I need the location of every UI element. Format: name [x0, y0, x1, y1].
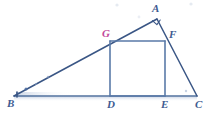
artifact-speckle [185, 90, 187, 92]
vertex-label-a: A [152, 3, 159, 14]
vertex-label-g: G [102, 28, 110, 39]
vertex-label-e: E [161, 99, 168, 110]
geometry-figure: A G F B D E C [0, 0, 209, 114]
artifact-speckle [115, 3, 118, 6]
artifact-speckle [25, 88, 28, 91]
artifact-speckle [138, 16, 141, 19]
geometry-canvas [0, 0, 209, 114]
artifact-speckle [189, 2, 192, 5]
vertex-label-c: C [195, 99, 202, 110]
artifact-speckle [35, 83, 37, 85]
vertex-label-b: B [7, 98, 14, 109]
segment-ac-side [157, 19, 197, 96]
vertex-label-f: F [169, 29, 176, 40]
base-shadow [14, 97, 197, 102]
vertex-label-d: D [107, 99, 115, 110]
artifact-speckle [47, 76, 49, 78]
